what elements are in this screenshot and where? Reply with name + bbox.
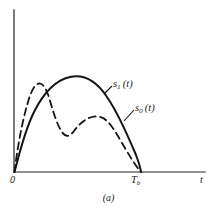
x-axis-label: t [200,175,203,185]
figure-caption: (a) [0,192,217,203]
figure-container: s1 (t) s0 (t) 0 Tb t (a) [0,0,217,212]
leader-line-s0 [124,110,134,121]
curve-label-s0-tail: (t) [145,102,155,113]
axis-tick-bit-duration: Tb [131,175,140,187]
curve-label-s0: s0 (t) [135,103,155,115]
axis-tick-bit-duration-subscript: b [137,179,141,187]
curve-label-s1-tail: (t) [123,78,133,89]
axis-tick-origin: 0 [10,175,15,185]
leader-line-s1 [104,86,112,94]
signal-waveform-plot [0,0,217,212]
curve-s0-dashed [15,83,142,172]
curve-label-s1: s1 (t) [113,79,133,91]
